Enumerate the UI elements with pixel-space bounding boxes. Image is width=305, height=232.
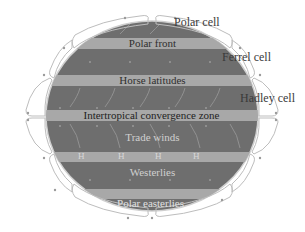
high-pressure-marker: H (118, 152, 125, 161)
itcz-label: Intertropical convergence zone (0, 110, 304, 121)
westerlies-label: Westerlies (0, 167, 305, 178)
hadley-cell-label: Hadley cell (240, 92, 295, 104)
polar-front-label: Polar front (0, 38, 305, 49)
high-pressure-marker: H (78, 152, 85, 161)
polar-cell-label: Polar cell (174, 16, 220, 28)
trade-winds-label: Trade winds (0, 132, 305, 143)
horse-latitudes-label: Horse latitudes (0, 75, 305, 86)
ferrel-cell-label: Ferrel cell (222, 51, 271, 63)
high-pressure-marker: H (155, 152, 162, 161)
polar-easterlies-label: Polar easterlies (0, 198, 303, 209)
high-pressure-marker: H (193, 152, 200, 161)
